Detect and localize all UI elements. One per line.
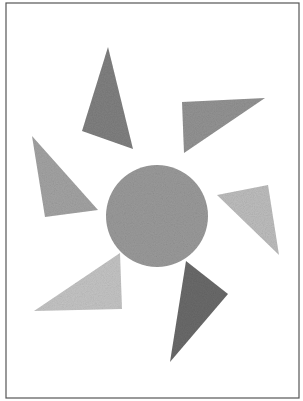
triangle-bottom-left [34, 253, 122, 311]
sun-circle [106, 165, 208, 267]
triangle-top-left [82, 47, 133, 149]
sun-artwork [0, 0, 303, 401]
triangle-right [217, 185, 279, 255]
triangle-left [32, 136, 98, 217]
triangle-bottom-right [170, 261, 228, 362]
triangle-top-right [182, 98, 265, 153]
